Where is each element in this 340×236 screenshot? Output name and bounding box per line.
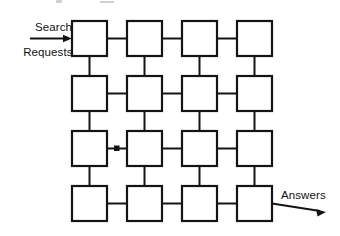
node-r2-c3[interactable]	[237, 131, 272, 166]
node-r3-c3[interactable]	[237, 186, 272, 221]
node-r1-c1[interactable]	[127, 76, 162, 111]
node-r0-c3[interactable]	[237, 21, 272, 56]
node-boxes-group	[72, 21, 272, 221]
horizontal-links-group	[107, 39, 237, 204]
node-r1-c2[interactable]	[182, 76, 217, 111]
scan-artifact-speck	[56, 0, 62, 3]
node-r3-c1[interactable]	[127, 186, 162, 221]
answers-arrow-shaft	[272, 204, 320, 212]
node-r0-c0[interactable]	[72, 21, 107, 56]
vertical-links-group	[90, 56, 255, 186]
node-r0-c2[interactable]	[182, 21, 217, 56]
scan-artifact-speck	[100, 1, 114, 3]
midpoint-marker-group	[114, 146, 120, 152]
node-r3-c0[interactable]	[72, 186, 107, 221]
search-requests-label-line-2: Requests	[23, 46, 72, 58]
node-r2-c1[interactable]	[127, 131, 162, 166]
link-midpoint-marker-icon	[114, 146, 120, 152]
node-r1-c0[interactable]	[72, 76, 107, 111]
answers-label: Answers	[281, 189, 326, 201]
search-requests-label-line-1: Search	[35, 21, 72, 33]
node-r1-c3[interactable]	[237, 76, 272, 111]
node-r3-c2[interactable]	[182, 186, 217, 221]
answers-arrow-group	[272, 204, 326, 217]
answers-arrow-head-icon	[316, 209, 326, 216]
node-r2-c0[interactable]	[72, 131, 107, 166]
search-requests-label: Search Requests	[10, 9, 72, 70]
node-r0-c1[interactable]	[127, 21, 162, 56]
mesh-network-diagram: Search Requests Answers	[0, 0, 340, 236]
node-r2-c2[interactable]	[182, 131, 217, 166]
